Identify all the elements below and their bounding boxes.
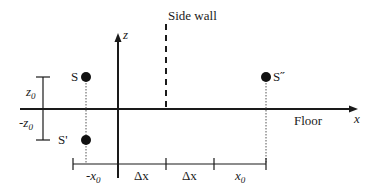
neg-x0-label: -x0 (86, 169, 101, 185)
diagram-canvas (0, 0, 378, 192)
z0-label: z0 (26, 85, 36, 101)
x-axis-label: x (354, 112, 360, 125)
source-point (81, 72, 91, 82)
side-wall-label: Side wall (168, 9, 217, 22)
image-source-diagram: Side wall z S S' S˝ Floor x z0 -z0 -x0 Δ… (0, 0, 378, 192)
wall-image-label: S˝ (273, 70, 285, 83)
z-axis-arrow-icon (115, 33, 122, 42)
floor-image-point (81, 135, 91, 145)
delta-x-label-1: Δx (134, 169, 149, 182)
wall-image-point (261, 72, 271, 82)
floor-label: Floor (294, 114, 322, 127)
z-axis-label: z (123, 28, 128, 41)
source-label: S (71, 70, 78, 83)
neg-z0-label: -z0 (19, 116, 33, 132)
floor-image-label: S' (58, 133, 68, 146)
x0-label: x0 (235, 169, 245, 185)
delta-x-label-2: Δx (182, 169, 197, 182)
